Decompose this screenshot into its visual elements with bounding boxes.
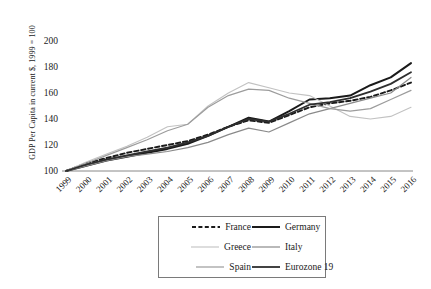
- legend-swatch-france: [191, 222, 221, 232]
- x-axis-tick-label: 2004: [155, 174, 175, 194]
- legend-entry[interactable]: Eurozone 19: [251, 262, 327, 272]
- y-axis-tick-label: 180: [44, 62, 59, 72]
- legend-swatch-spain: [195, 262, 225, 272]
- x-axis-tick-labels: 1999200020012002200320042005200620072008…: [54, 174, 419, 194]
- legend-swatch-eurozone-19: [251, 262, 281, 272]
- y-axis-tick-label: 100: [44, 166, 59, 176]
- chart-figure: GDP Per Capita in current $, 1999 = 100 …: [0, 0, 431, 289]
- legend-label: Greece: [224, 242, 251, 252]
- y-axis-tick-label: 140: [44, 114, 59, 124]
- x-axis-tick-label: 2016: [399, 174, 419, 194]
- legend-label: France: [225, 222, 251, 232]
- x-axis-tick-label: 1999: [54, 174, 74, 194]
- x-axis-tick-label: 2000: [74, 174, 94, 194]
- legend-label: Italy: [285, 242, 302, 252]
- x-axis-tick-label: 2009: [257, 174, 277, 194]
- legend-label: Eurozone 19: [285, 262, 333, 272]
- x-axis-tick-label: 2013: [338, 174, 358, 194]
- x-axis-tick-label: 2007: [216, 174, 236, 194]
- y-axis-tick-label: 160: [44, 88, 59, 98]
- x-axis-tick-label: 2010: [277, 174, 297, 194]
- x-axis-tick-label: 2014: [358, 174, 378, 194]
- x-axis-tick-label: 2012: [317, 174, 337, 194]
- legend-entry[interactable]: Greece: [159, 242, 251, 252]
- legend-label: Spain: [229, 262, 251, 272]
- x-axis-tick-label: 2003: [135, 174, 155, 194]
- legend-entry[interactable]: France: [159, 222, 251, 232]
- y-axis-tick-label: 120: [44, 140, 59, 150]
- x-axis-tick-label: 2011: [297, 174, 317, 194]
- legend-entry[interactable]: Germany: [251, 222, 327, 232]
- series-lines: [66, 63, 411, 171]
- legend-entry[interactable]: Spain: [159, 262, 251, 272]
- x-axis-tick-label: 2002: [114, 174, 134, 194]
- y-axis-tick-label: 200: [44, 36, 59, 46]
- x-axis-tick-label: 2008: [236, 174, 256, 194]
- x-axis-tick-label: 2015: [378, 174, 398, 194]
- legend-swatch-greece: [190, 242, 220, 252]
- x-axis-tick-label: 2006: [196, 174, 216, 194]
- legend-swatch-germany: [251, 222, 281, 232]
- x-axis-tick-label: 2001: [94, 174, 114, 194]
- legend-entry[interactable]: Italy: [251, 242, 327, 252]
- x-axis-tick-label: 2005: [175, 174, 195, 194]
- legend-label: Germany: [285, 222, 320, 232]
- y-axis-tick-labels: 100120140160180200: [44, 36, 59, 176]
- legend: FranceGermanyGreeceItalySpainEurozone 19: [158, 216, 326, 278]
- legend-swatch-italy: [251, 242, 281, 252]
